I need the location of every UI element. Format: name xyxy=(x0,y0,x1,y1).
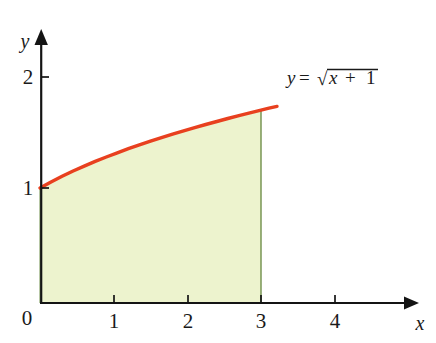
x-tick-label-4: 4 xyxy=(330,309,341,333)
x-tick-label-3: 3 xyxy=(256,309,267,333)
y-axis-arrowhead xyxy=(35,29,48,45)
origin-label: 0 xyxy=(22,306,33,330)
figure-container: 1 2 3 4 1 2 0 x y y = √ x + 1 xyxy=(0,0,436,343)
y-axis-label: y xyxy=(19,30,30,53)
equation-lhs: y xyxy=(285,67,296,88)
y-tick-label-2: 2 xyxy=(23,65,34,89)
equation-radicand-variable: x xyxy=(328,67,338,88)
x-tick-label-1: 1 xyxy=(109,309,120,333)
x-axis-label: x xyxy=(415,312,425,334)
y-tick-label-1: 1 xyxy=(23,176,34,200)
x-axis-arrowhead xyxy=(404,297,419,310)
shaded-region xyxy=(40,110,261,303)
equation-equals: = xyxy=(299,67,310,88)
x-tick-label-2: 2 xyxy=(183,309,194,333)
function-plot: 1 2 3 4 1 2 0 x y y = √ x + 1 xyxy=(0,0,436,343)
equation-plus-sign: + xyxy=(345,67,356,88)
equation-radical-sign: √ xyxy=(317,68,328,89)
equation-radicand-constant: 1 xyxy=(366,67,376,88)
equation-annotation: y = √ x + 1 xyxy=(285,67,378,89)
